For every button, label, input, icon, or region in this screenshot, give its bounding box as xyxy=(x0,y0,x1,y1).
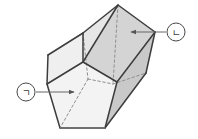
solid-diagram-canvas: ㄱ ㄴ xyxy=(0,0,198,139)
edge-lateral-left xyxy=(47,55,48,84)
solid-body xyxy=(47,5,155,128)
pentagonal-prism-figure: ㄱ ㄴ xyxy=(0,0,198,139)
label-giyeok-text: ㄱ xyxy=(22,87,31,98)
label-nieun-text: ㄴ xyxy=(172,27,181,38)
